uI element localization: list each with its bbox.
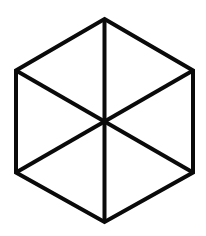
- hexagon-diagonals: [16, 19, 193, 222]
- hexagon-diagram: [0, 0, 206, 236]
- diagram-canvas: [0, 0, 206, 236]
